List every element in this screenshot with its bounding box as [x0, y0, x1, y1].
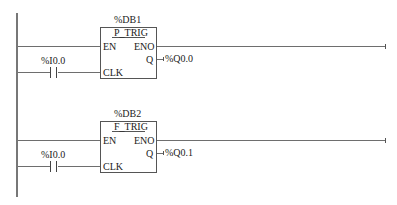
output-tick-icon: [163, 57, 164, 61]
f-trig-block[interactable]: F_TRIG EN ENO Q CLK: [100, 121, 157, 173]
instance-db: %DB1: [114, 15, 141, 25]
en-pin-label: EN: [103, 42, 116, 52]
instance-db: %DB2: [114, 109, 141, 119]
no-contact-icon[interactable]: [50, 161, 58, 172]
clk-pin-label: CLK: [103, 68, 123, 78]
eno-pin-label: ENO: [134, 42, 155, 52]
rung-end-icon: [385, 138, 386, 143]
output-address: %Q0.1: [165, 148, 193, 158]
contact-address: %I0.0: [41, 56, 65, 66]
contact-address: %I0.0: [41, 150, 65, 160]
block-type-label: P_TRIG: [114, 28, 148, 38]
block-type-label: F_TRIG: [114, 122, 148, 132]
en-pin-label: EN: [103, 136, 116, 146]
eno-wire: [157, 46, 385, 47]
q-pin-label: Q: [146, 149, 153, 159]
clk-wire-right: [58, 166, 100, 167]
clk-wire-left: [18, 72, 50, 73]
clk-pin-label: CLK: [103, 162, 123, 172]
eno-pin-label: ENO: [134, 136, 155, 146]
left-power-rail: [16, 13, 18, 197]
q-pin-label: Q: [146, 55, 153, 65]
eno-wire: [157, 140, 385, 141]
rung-end-icon: [385, 44, 386, 49]
p-trig-block[interactable]: P_TRIG EN ENO Q CLK: [100, 27, 157, 79]
clk-wire-right: [58, 72, 100, 73]
clk-wire-left: [18, 166, 50, 167]
output-address: %Q0.0: [165, 54, 193, 64]
en-wire: [18, 46, 100, 47]
no-contact-icon[interactable]: [50, 67, 58, 78]
output-tick-icon: [163, 151, 164, 155]
en-wire: [18, 140, 100, 141]
